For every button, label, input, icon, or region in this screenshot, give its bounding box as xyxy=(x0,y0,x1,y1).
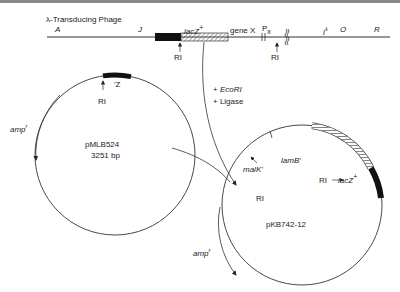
ri-site-label: RI xyxy=(319,176,327,185)
ri-site-label: RI xyxy=(98,97,106,106)
ri-site-label: RI xyxy=(256,194,264,203)
gene-j-label: J xyxy=(138,25,142,34)
malk-tick xyxy=(270,131,272,138)
lamb-label: lamB' xyxy=(281,156,301,165)
malk-label: malK' xyxy=(243,165,263,174)
phage-title: λ-Transducing Phage xyxy=(46,15,122,24)
amp-label-right: ampr xyxy=(193,246,211,258)
lacz-plus-label: lacZ+ xyxy=(338,172,357,185)
reaction-ligase: + Ligase xyxy=(213,97,243,106)
gene-r-label: R xyxy=(374,25,380,34)
plasmid-right-black-segment xyxy=(371,168,381,198)
plasmid-left-size: 3251 bp xyxy=(91,151,120,160)
ri-site-label: RI xyxy=(271,53,279,62)
gene-a-label: A xyxy=(55,25,60,34)
gene-x-label: gene X xyxy=(230,26,255,35)
plasmid-left-z-insert xyxy=(103,75,131,77)
phage-black-segment xyxy=(155,33,181,41)
z-insert-label: 'Z xyxy=(114,80,120,89)
reaction-ecori: + EcoRI xyxy=(213,85,242,94)
gene-i-label: iλ xyxy=(323,25,328,37)
amp-arrow-right xyxy=(218,207,236,275)
px-label: Px xyxy=(262,24,271,36)
amp-label-left: ampr xyxy=(10,122,28,134)
gene-o-label: O xyxy=(340,25,346,34)
ri-arrow-icon xyxy=(251,157,257,163)
ri-site-label: RI xyxy=(174,53,182,62)
plasmid-arrow xyxy=(172,148,230,182)
lacz-label: lacZ+ xyxy=(184,23,203,36)
plasmid-left-name: pMLB524 xyxy=(85,140,119,149)
plasmid-right-name: pKB742-12 xyxy=(266,220,306,229)
